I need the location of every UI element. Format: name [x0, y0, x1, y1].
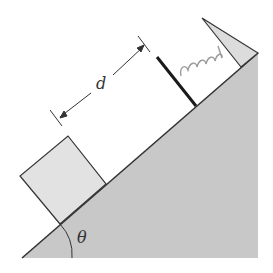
wall-stop	[202, 18, 258, 67]
incline-diagram: d θ	[0, 0, 273, 273]
distance-label: d	[96, 74, 106, 93]
angle-label: θ	[77, 228, 87, 247]
spring	[181, 46, 222, 76]
diagram-canvas: d θ	[0, 0, 273, 273]
